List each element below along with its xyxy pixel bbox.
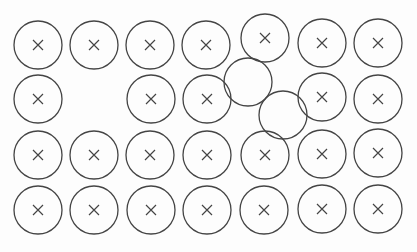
marked-circle <box>127 75 175 123</box>
marked-circle <box>183 186 231 234</box>
x-mark-icon <box>145 40 155 50</box>
marked-circle <box>354 19 402 67</box>
marked-circle <box>354 129 402 177</box>
x-mark-icon <box>202 94 212 104</box>
marked-circle <box>298 19 346 67</box>
x-mark-icon <box>259 205 269 215</box>
x-mark-icon <box>373 38 383 48</box>
x-mark-icon <box>146 94 156 104</box>
x-mark-icon <box>317 92 327 102</box>
marked-circle <box>70 21 118 69</box>
marked-circle <box>241 131 289 179</box>
marked-circle <box>126 21 174 69</box>
x-mark-icon <box>260 33 270 43</box>
x-mark-icon <box>317 38 327 48</box>
empty-circle <box>259 91 307 139</box>
diagram-canvas <box>0 0 417 252</box>
marked-circle <box>183 131 231 179</box>
marked-circle <box>70 131 118 179</box>
x-mark-icon <box>202 205 212 215</box>
circle-grid-diagram <box>0 0 417 252</box>
marked-circle <box>14 186 62 234</box>
marked-circle <box>14 75 62 123</box>
x-mark-icon <box>317 149 327 159</box>
x-mark-icon <box>33 150 43 160</box>
x-mark-icon <box>89 40 99 50</box>
x-mark-icon <box>373 148 383 158</box>
x-mark-icon <box>373 94 383 104</box>
x-mark-icon <box>145 150 155 160</box>
x-mark-icon <box>202 150 212 160</box>
marked-circle <box>126 131 174 179</box>
marked-circle <box>354 75 402 123</box>
marked-circle <box>241 14 289 62</box>
x-mark-icon <box>33 40 43 50</box>
marked-circle <box>354 185 402 233</box>
marked-circle <box>298 185 346 233</box>
x-mark-icon <box>317 204 327 214</box>
marked-circle <box>127 186 175 234</box>
marked-circle <box>298 73 346 121</box>
marked-circle <box>14 131 62 179</box>
marked-circle <box>240 186 288 234</box>
marked-circle <box>70 186 118 234</box>
x-mark-icon <box>33 205 43 215</box>
x-mark-icon <box>201 40 211 50</box>
marked-circle <box>182 21 230 69</box>
x-mark-icon <box>373 204 383 214</box>
marked-circle <box>298 130 346 178</box>
x-mark-icon <box>146 205 156 215</box>
circle-outline <box>259 91 307 139</box>
x-mark-icon <box>260 150 270 160</box>
x-mark-icon <box>33 94 43 104</box>
x-mark-icon <box>89 205 99 215</box>
x-mark-icon <box>89 150 99 160</box>
marked-circle <box>14 21 62 69</box>
